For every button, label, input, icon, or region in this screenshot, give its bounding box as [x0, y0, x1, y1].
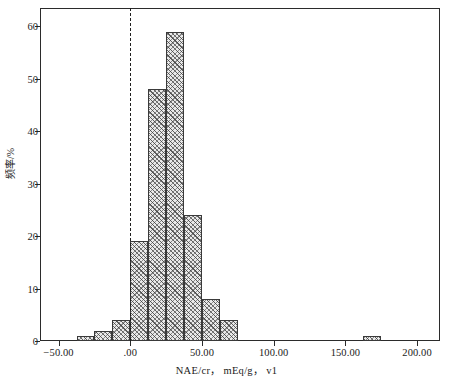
- x-axis-tick-label: 150.00: [331, 347, 360, 358]
- x-axis-tick: [274, 341, 275, 346]
- y-axis-tick-label: 0: [12, 336, 38, 347]
- x-axis-tick-label: 200.00: [402, 347, 431, 358]
- histogram-bar: [148, 89, 166, 341]
- y-axis-tick-label: 10: [12, 283, 38, 294]
- histogram-bar: [220, 320, 238, 341]
- x-axis-tick-label: .00: [124, 347, 137, 358]
- histogram-bar: [130, 241, 148, 341]
- y-axis-title: 频率/%: [2, 129, 17, 199]
- histogram-bars: [40, 8, 440, 341]
- x-axis-tick-label: 50.00: [190, 347, 214, 358]
- histogram-bar: [77, 336, 95, 341]
- x-axis-title: NAE/cr， mEq/g， v1: [0, 362, 453, 377]
- x-axis-tick: [130, 341, 131, 346]
- y-axis-tick-label: 60: [12, 21, 38, 32]
- x-axis-tick: [417, 341, 418, 346]
- x-axis-tick-label: −50.00: [44, 347, 74, 358]
- histogram-bar: [363, 336, 381, 341]
- x-axis-tick: [59, 341, 60, 346]
- y-axis-tick-label: 50: [12, 73, 38, 84]
- histogram-bar: [184, 215, 202, 341]
- x-axis-tick: [202, 341, 203, 346]
- zero-reference-line-icon: [130, 8, 131, 341]
- histogram-bar: [166, 32, 184, 341]
- histogram-bar: [94, 331, 112, 341]
- x-axis-tick-label: 100.00: [259, 347, 288, 358]
- histogram-bar: [202, 299, 220, 341]
- histogram-bar: [112, 320, 130, 341]
- y-axis-tick-label: 20: [12, 231, 38, 242]
- x-axis-tick: [345, 341, 346, 346]
- histogram-figure: −50.00.0050.00100.00150.00200.00 0102030…: [0, 0, 453, 382]
